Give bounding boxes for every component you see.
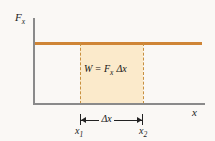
constant-force-line — [33, 42, 202, 45]
delta-x-measure: Δx — [80, 114, 143, 126]
measure-cap-right — [142, 114, 143, 125]
equation-term-f-subscript: x — [110, 68, 113, 77]
equation-term-delta-x: Δx — [116, 63, 126, 74]
equation-operator-equals: = — [95, 63, 101, 74]
arrow-left-icon — [81, 117, 86, 123]
work-equation: W=FxΔx — [84, 64, 127, 77]
arrow-right-icon — [137, 117, 142, 123]
delta-x-label: Δx — [99, 113, 114, 125]
x-axis-label: x — [192, 107, 197, 118]
dashed-boundary-x2 — [143, 43, 144, 104]
tick-label-x2-subscript: 2 — [143, 130, 147, 139]
y-axis-label-subscript: x — [22, 17, 25, 26]
tick-label-x2: x2 — [139, 126, 147, 139]
work-force-diagram: Fx x W=FxΔx Δx x1 x2 — [0, 0, 215, 141]
y-axis-label: Fx — [15, 12, 25, 26]
equation-term-w: W — [84, 63, 92, 74]
x-axis — [33, 103, 205, 105]
tick-label-x1-subscript: 1 — [79, 130, 83, 139]
tick-label-x1: x1 — [75, 126, 83, 139]
y-axis-label-text: F — [15, 11, 22, 23]
dashed-boundary-x1 — [80, 43, 81, 104]
y-axis — [33, 18, 35, 104]
